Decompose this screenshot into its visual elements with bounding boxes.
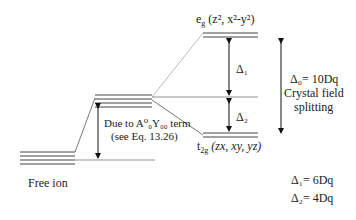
delta2-equation: Δ₂= 4Dq (291, 191, 333, 205)
shift-annotation-line2: (see Eq. 13.26) (111, 129, 178, 143)
delta2-label: Δ₂ (236, 110, 248, 124)
delta1-label: Δ₁ (236, 62, 248, 76)
splitting-label: splitting (294, 100, 333, 114)
shift-annotation-line1: Due to A⁰₀Y₀₀ term (104, 116, 191, 130)
delta0-label: Δ₀= 10Dq (290, 72, 338, 86)
crystal-field-label: Crystal field (284, 86, 344, 100)
t2g-levels (203, 133, 258, 137)
crystal-field-splitting-diagram: eg (z², x²-y²) t2g (zx, xy, yz) Free ion… (0, 0, 356, 220)
free-ion-label: Free ion (28, 176, 68, 190)
eg-levels (203, 33, 258, 37)
eg-label: eg (z², x²-y²) (196, 12, 254, 26)
shifted-levels (95, 95, 152, 107)
delta1-equation: Δ₁= 6Dq (291, 173, 333, 187)
free-ion-levels (20, 152, 75, 164)
t2g-label: t2g (zx, xy, yz) (197, 139, 261, 153)
